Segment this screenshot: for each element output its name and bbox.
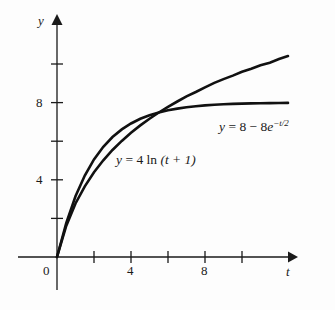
x-tick-label-4: 4 [127, 264, 134, 277]
x-axis-arrowhead [288, 252, 298, 263]
figure-canvas: y t 8 4 0 4 8 y = 8 − 8e−t/2 y = 4 ln (t… [0, 0, 335, 310]
x-axis-variable-label: t [286, 265, 290, 278]
curve-label-exponential: y = 8 − 8e−t/2 [219, 120, 289, 134]
exp-label-exponent: −t/2 [273, 118, 289, 128]
log-label-equals: = [125, 152, 133, 167]
exp-label-equals: = [228, 119, 236, 134]
y-axis-arrowhead [52, 14, 63, 25]
log-label-function: ln [147, 152, 158, 167]
y-axis-variable-label: y [38, 14, 44, 27]
exp-label-minus: − [250, 119, 258, 134]
curve-label-logarithmic: y = 4 ln (t + 1) [116, 153, 196, 167]
x-tick-label-8: 8 [201, 264, 208, 277]
y-tick-label-8: 8 [36, 96, 43, 109]
y-tick-label-4: 4 [36, 173, 43, 186]
x-tick-label-0: 0 [43, 264, 50, 277]
log-label-argument: (t + 1) [160, 152, 195, 167]
